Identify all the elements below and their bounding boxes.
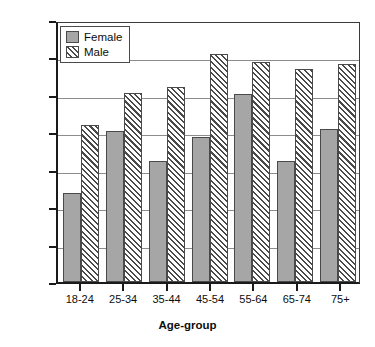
y-axis-tickmark [49, 58, 56, 60]
bar-group [145, 23, 188, 282]
chart-legend: FemaleMale [60, 26, 130, 63]
x-axis-tickmark [252, 284, 254, 291]
y-axis-tickmark [49, 208, 56, 210]
x-axis-tickmark [339, 284, 341, 291]
x-axis-tickmark [166, 284, 168, 291]
x-axis-tick-label: 18-24 [58, 293, 101, 305]
x-axis-tick-slot [232, 284, 275, 292]
x-axis-labels: 18-2425-3435-4445-5455-6465-7475+ [58, 293, 362, 305]
x-axis-tick-label: 35-44 [145, 293, 188, 305]
bar-female-35-44 [149, 161, 167, 282]
bar-group [316, 23, 359, 282]
legend-swatch-female-icon [66, 31, 79, 43]
bar-female-25-34 [106, 131, 124, 282]
bar-female-45-54 [192, 137, 210, 282]
y-axis-tickmark [49, 171, 56, 173]
x-axis-tick-label: 45-54 [188, 293, 231, 305]
bar-male-75+ [338, 64, 356, 282]
x-axis-tick-slot [145, 284, 188, 292]
bar-male-25-34 [124, 93, 142, 282]
x-axis-tickmark [79, 284, 81, 291]
legend-swatch-male-icon [66, 46, 79, 58]
x-axis-tick-label: 25-34 [101, 293, 144, 305]
bar-male-35-44 [167, 87, 185, 282]
bar-group [231, 23, 274, 282]
legend-label: Male [84, 46, 109, 58]
x-axis-tick-slot [188, 284, 231, 292]
x-axis-tickmark [296, 284, 298, 291]
x-axis-tick-slot [58, 284, 101, 292]
x-axis-tick-slot [319, 284, 362, 292]
bar-male-45-54 [210, 54, 228, 282]
bar-female-18-24 [63, 193, 81, 282]
x-axis-tick-slot [275, 284, 318, 292]
bar-female-55-64 [234, 94, 252, 282]
bar-group [274, 23, 317, 282]
bar-male-65-74 [295, 69, 313, 282]
x-axis-tick-label: 75+ [319, 293, 362, 305]
legend-label: Female [84, 31, 122, 43]
bar-female-75+ [320, 129, 338, 282]
x-axis-tick-label: 55-64 [232, 293, 275, 305]
bar-chart: 05101520253035 Percent 18-2425-3435-4445… [0, 0, 375, 347]
bar-male-55-64 [252, 62, 270, 282]
legend-item-female: Female [66, 31, 122, 43]
x-axis-tick-slot [101, 284, 144, 292]
x-axis-tickmark [209, 284, 211, 291]
x-axis-tickmarks [58, 284, 362, 292]
bar-male-18-24 [81, 125, 99, 282]
x-axis-tick-label: 65-74 [275, 293, 318, 305]
y-axis-tickmark [49, 133, 56, 135]
y-axis-tickmark [49, 21, 56, 23]
y-axis-tickmark [49, 246, 56, 248]
x-axis-tickmark [122, 284, 124, 291]
bar-female-65-74 [277, 161, 295, 282]
bar-group [188, 23, 231, 282]
legend-item-male: Male [66, 46, 122, 58]
y-axis-tickmark [49, 283, 56, 285]
y-axis-tickmark [49, 96, 56, 98]
x-axis-title: Age-group [0, 319, 375, 331]
